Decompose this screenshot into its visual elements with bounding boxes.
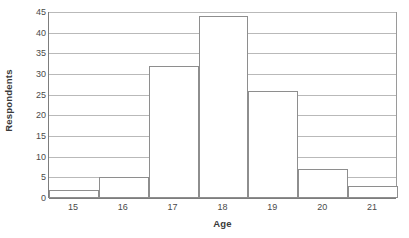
x-tick-label-17: 17 xyxy=(148,201,198,213)
bar-chart: Respondents 051015202530354045 151617181… xyxy=(0,0,409,238)
y-axis-title: Respondents xyxy=(0,0,16,200)
x-tick-label-21: 21 xyxy=(347,201,397,213)
bars-layer xyxy=(49,12,396,198)
x-tick-label-20: 20 xyxy=(297,201,347,213)
bar-age-21 xyxy=(348,186,398,198)
bar-age-15 xyxy=(49,190,99,198)
x-tick-label-19: 19 xyxy=(247,201,297,213)
y-tick-label-25: 25 xyxy=(18,90,46,99)
x-axis-tick-labels: 15161718192021 xyxy=(48,201,397,217)
plot-area xyxy=(48,12,397,198)
bar-age-16 xyxy=(99,177,149,198)
gridline-0 xyxy=(49,198,396,199)
bar-age-19 xyxy=(248,91,298,198)
y-tick-label-15: 15 xyxy=(18,132,46,141)
y-tick-label-35: 35 xyxy=(18,49,46,58)
x-tick-label-15: 15 xyxy=(48,201,98,213)
bar-age-20 xyxy=(298,169,348,198)
y-tick-label-45: 45 xyxy=(18,8,46,17)
x-tick-label-18: 18 xyxy=(198,201,248,213)
y-tick-label-30: 30 xyxy=(18,70,46,79)
y-axis-tick-labels: 051015202530354045 xyxy=(18,0,46,238)
y-tick-label-10: 10 xyxy=(18,152,46,161)
y-tick-label-40: 40 xyxy=(18,28,46,37)
y-axis-title-label: Respondents xyxy=(3,69,14,131)
bar-age-18 xyxy=(199,16,249,198)
y-tick-label-20: 20 xyxy=(18,111,46,120)
x-tick-label-16: 16 xyxy=(98,201,148,213)
y-tick-label-0: 0 xyxy=(18,194,46,203)
x-axis-title: Age xyxy=(48,218,397,229)
y-tick-label-5: 5 xyxy=(18,173,46,182)
bar-age-17 xyxy=(149,66,199,198)
